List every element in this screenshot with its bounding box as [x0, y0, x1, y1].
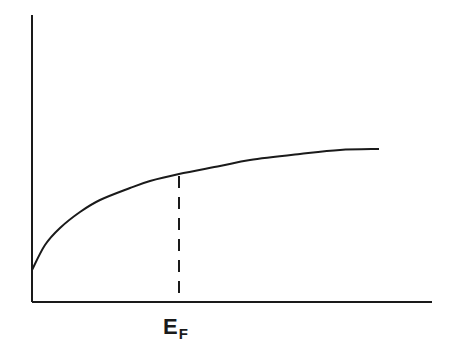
label-main: E — [163, 314, 178, 339]
curve — [32, 149, 379, 270]
diagram-canvas — [0, 0, 449, 361]
label-subscript: F — [179, 325, 188, 342]
fermi-level-label: EF — [163, 314, 188, 342]
